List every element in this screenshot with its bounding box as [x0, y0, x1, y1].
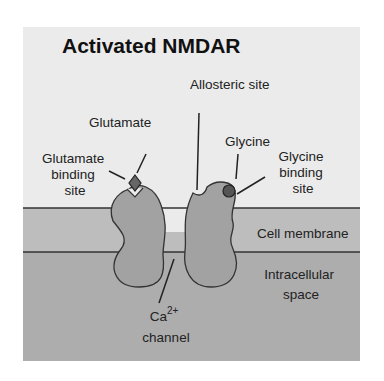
glycine-label: Glycine — [225, 134, 270, 149]
nmdar-diagram: Activated NMDAR Allosteric site Glutamat… — [23, 27, 360, 361]
diagram-title: Activated NMDAR — [62, 34, 241, 57]
allosteric-site-label: Allosteric site — [190, 77, 270, 92]
right-receptor-subunit — [185, 182, 237, 287]
glutamate-label: Glutamate — [89, 115, 151, 130]
cell-membrane-label: Cell membrane — [257, 226, 349, 241]
channel-pore — [163, 208, 187, 232]
glycine-icon — [223, 185, 235, 197]
